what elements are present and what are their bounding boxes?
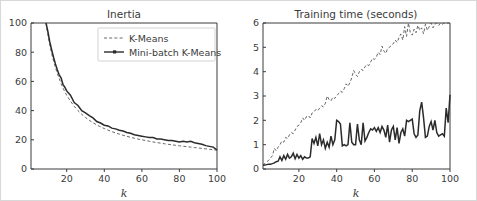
time-xtick-60: 60 <box>368 173 380 184</box>
inertia-xtick-100: 100 <box>208 173 226 184</box>
subplot-inertia: 0 20 40 60 80 100 20 40 60 80 100 Inerti… <box>1 1 239 201</box>
inertia-xtick-40: 40 <box>98 173 110 184</box>
inertia-xtick-20: 20 <box>61 173 73 184</box>
inertia-ytick-100: 100 <box>9 17 27 28</box>
legend[interactable]: K-Means Mini-batch K-Means <box>98 28 221 61</box>
inertia-ytick-20: 20 <box>15 134 27 145</box>
inertia-xtick-80: 80 <box>173 173 185 184</box>
training-time-plot-svg: 0 1 2 3 4 5 6 20 40 60 80 100 Training <box>239 1 477 201</box>
time-xlabel: k <box>353 187 360 200</box>
legend-label-minibatch: Mini-batch K-Means <box>129 47 221 58</box>
time-axes <box>263 23 450 169</box>
inertia-y-ticks: 0 20 40 60 80 100 <box>9 17 34 174</box>
time-ytick-4: 4 <box>253 66 259 77</box>
time-ytick-2: 2 <box>253 115 259 126</box>
inertia-xtick-60: 60 <box>136 173 148 184</box>
inertia-xlabel: k <box>121 187 128 200</box>
time-ytick-1: 1 <box>253 139 259 150</box>
inertia-ytick-0: 0 <box>21 163 27 174</box>
inertia-plot-svg: 0 20 40 60 80 100 20 40 60 80 100 Inerti… <box>1 1 239 201</box>
inertia-ytick-60: 60 <box>15 76 27 87</box>
time-ytick-6: 6 <box>253 17 259 28</box>
time-xtick-40: 40 <box>331 173 343 184</box>
time-ytick-0: 0 <box>253 163 259 174</box>
time-ytick-5: 5 <box>253 42 259 53</box>
time-plot-background <box>263 23 450 169</box>
time-xtick-80: 80 <box>406 173 418 184</box>
time-xtick-20: 20 <box>293 173 305 184</box>
time-title: Training time (seconds) <box>294 8 418 20</box>
time-xtick-100: 100 <box>441 173 459 184</box>
time-x-ticks: 20 40 60 80 100 <box>293 169 459 184</box>
time-ytick-3: 3 <box>253 90 259 101</box>
inertia-ytick-40: 40 <box>15 105 27 116</box>
inertia-ytick-80: 80 <box>15 47 27 58</box>
inertia-title: Inertia <box>107 8 141 20</box>
figure-container: 0 20 40 60 80 100 20 40 60 80 100 Inerti… <box>0 0 477 201</box>
legend-marker-minibatch <box>113 50 116 53</box>
inertia-x-ticks: 20 40 60 80 100 <box>61 169 226 184</box>
legend-label-kmeans: K-Means <box>129 33 169 44</box>
subplot-training-time: 0 1 2 3 4 5 6 20 40 60 80 100 Training <box>239 1 477 201</box>
